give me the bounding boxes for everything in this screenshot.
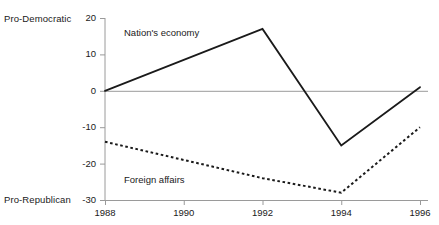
series-label-nations-economy: Nation's economy [124, 27, 199, 38]
plot-area [0, 0, 439, 225]
x-tick-label: 1988 [85, 207, 125, 218]
axis-top-label: Pro-Democratic [4, 13, 71, 24]
x-tick-label: 1994 [321, 207, 361, 218]
y-tick-label: 10 [70, 48, 96, 59]
x-tick-label: 1992 [243, 207, 283, 218]
y-axis [100, 18, 105, 201]
y-tick-label: 20 [70, 12, 96, 23]
series-lines [105, 29, 420, 193]
y-tick-label: 0 [70, 85, 96, 96]
y-tick-label: -30 [70, 194, 96, 205]
x-tick-label: 1990 [164, 207, 204, 218]
x-tick-label: 1996 [400, 207, 439, 218]
axis-bottom-label: Pro-Republican [4, 194, 71, 205]
series-label-foreign-affairs: Foreign affairs [124, 174, 185, 185]
x-axis [105, 200, 428, 205]
line-chart: Pro-Democratic Pro-Republican 20100-10-2… [0, 0, 439, 225]
y-tick-label: -10 [70, 121, 96, 132]
y-tick-label: -20 [70, 158, 96, 169]
series-line-1 [105, 29, 420, 145]
